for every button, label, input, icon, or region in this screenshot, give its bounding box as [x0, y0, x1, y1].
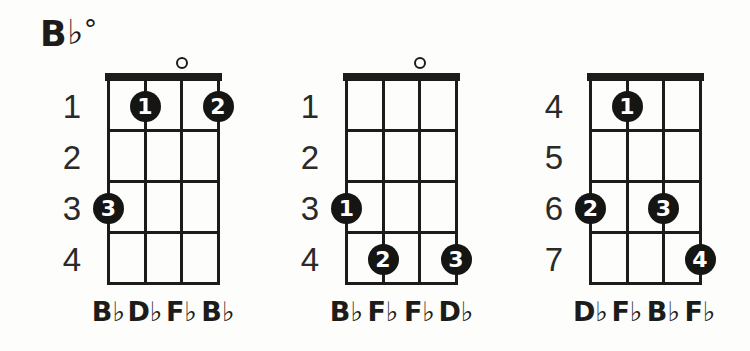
finger-dot: 1: [612, 91, 643, 122]
chord-diagram: 45671234D♭F♭B♭F♭: [0, 0, 750, 351]
fret-number-label: 4: [513, 85, 563, 129]
finger-dot: 2: [575, 193, 606, 224]
fret-number-label: 7: [513, 238, 563, 282]
string-line: [662, 81, 665, 285]
string-line: [589, 81, 592, 285]
fret-line: [589, 231, 702, 234]
fret-line: [589, 282, 702, 285]
fret-line: [589, 180, 702, 183]
finger-dot: 4: [685, 244, 716, 275]
finger-dot: 3: [648, 193, 679, 224]
chord-chart-page: B♭° 1234123B♭D♭F♭B♭ 1234123B♭F♭F♭D♭ 4567…: [0, 0, 750, 351]
note-label: F♭: [677, 296, 723, 327]
fret-line: [589, 129, 702, 132]
fret-number-label: 6: [513, 187, 563, 231]
nut: [587, 73, 705, 81]
fret-number-label: 5: [513, 136, 563, 180]
